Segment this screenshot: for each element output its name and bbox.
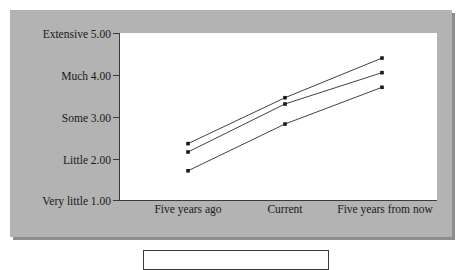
series-2-marker-3 xyxy=(380,71,384,75)
series-3-marker-2 xyxy=(283,122,287,126)
series-line-2 xyxy=(188,73,382,152)
series-line-3 xyxy=(188,87,382,170)
series-1-marker-1 xyxy=(186,142,190,146)
series-3-marker-1 xyxy=(186,169,190,173)
series-2-marker-1 xyxy=(186,150,190,154)
legend-box xyxy=(143,250,329,270)
series-2-marker-2 xyxy=(283,102,287,106)
series-3-marker-3 xyxy=(380,85,384,89)
series-1-marker-3 xyxy=(380,56,384,60)
series-group xyxy=(186,56,384,172)
series-1-marker-2 xyxy=(283,96,287,100)
series-line-1 xyxy=(188,58,382,144)
